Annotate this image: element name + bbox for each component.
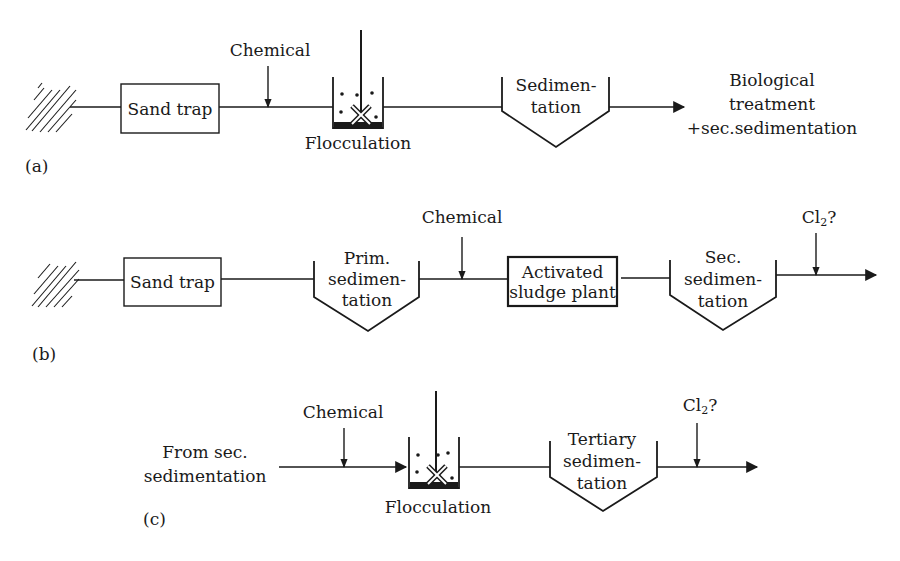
sec-sed-line-2: sedimen-	[684, 268, 762, 290]
prim-sed-line-3: tation	[328, 290, 406, 311]
chemical-label: Chemical	[422, 206, 503, 229]
outlet-line-2: treatment	[687, 92, 858, 116]
cl2-label: Cl2?	[683, 394, 718, 417]
chemical-label: Chemical	[303, 401, 384, 424]
prim-sed-line-1: Prim.	[328, 248, 406, 269]
cl2-label: Cl2?	[802, 206, 837, 229]
tert-sed-line-3: tation	[563, 472, 641, 494]
sand-trap-text: Sand trap	[130, 272, 215, 292]
prim-sedimentation-label: Prim. sedimen- tation	[328, 248, 406, 311]
activated-sludge-line-1: Activated	[522, 262, 604, 282]
panel-a-label: (a)	[25, 155, 48, 178]
biological-treatment-label: Biological treatment +sec.sedimentation	[687, 68, 858, 140]
tert-sed-line-2: sedimen-	[563, 450, 641, 472]
hatched-source-icon	[26, 83, 76, 132]
panel-b-label: (b)	[32, 343, 56, 366]
sand-trap-text: Sand trap	[128, 99, 213, 119]
from-sec-sedimentation-label: From sec. sedimentation	[144, 440, 267, 488]
hatched-source-icon	[32, 262, 79, 307]
source-line-1: From sec.	[144, 440, 267, 464]
tert-sed-line-1: Tertiary	[563, 428, 641, 450]
sedimentation-line-2: tation	[516, 96, 597, 118]
outlet-line-3: +sec.sedimentation	[687, 116, 858, 140]
source-line-2: sedimentation	[144, 464, 267, 488]
flocculation-tank-icon	[333, 30, 383, 128]
sedimentation-line-1: Sedimen-	[516, 74, 597, 96]
activated-sludge-line-2: sludge plant	[509, 282, 616, 302]
flocculation-label: Flocculation	[305, 132, 411, 155]
sedimentation-label: Sedimen- tation	[516, 74, 597, 118]
flocculation-label: Flocculation	[385, 496, 491, 519]
sand-trap-label: Sand trap	[124, 258, 221, 306]
activated-sludge-label: Activated sludge plant	[508, 257, 617, 306]
chemical-label: Chemical	[230, 39, 311, 62]
tertiary-sedimentation-label: Tertiary sedimen- tation	[563, 428, 641, 494]
flocculation-tank-icon	[409, 391, 459, 488]
sec-sedimentation-label: Sec. sedimen- tation	[684, 246, 762, 312]
outlet-line-1: Biological	[687, 68, 858, 92]
sec-sed-line-3: tation	[684, 290, 762, 312]
prim-sed-line-2: sedimen-	[328, 269, 406, 290]
sand-trap-label: Sand trap	[121, 84, 219, 133]
panel-c-label: (c)	[143, 508, 166, 531]
sec-sed-line-1: Sec.	[684, 246, 762, 268]
